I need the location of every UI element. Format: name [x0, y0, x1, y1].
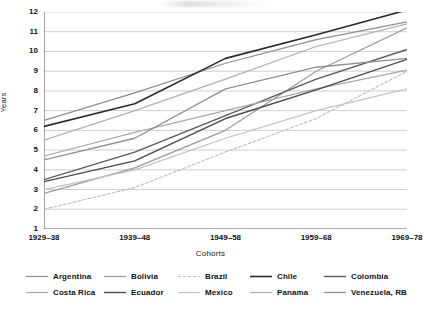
- legend-swatch-icon: [26, 288, 48, 297]
- legend-label: Bolivia: [131, 272, 158, 281]
- y-axis-tick-label: 1: [20, 225, 38, 233]
- y-axis-tick-label: 7: [20, 107, 38, 115]
- legend-label: Costa Rica: [53, 288, 95, 297]
- legend-item-panama[interactable]: Panama: [250, 284, 324, 300]
- legend-item-chile[interactable]: Chile: [250, 268, 324, 284]
- legend-swatch-icon: [104, 288, 126, 297]
- y-axis-tick-label: 4: [20, 166, 38, 174]
- x-axis-tick-label: 1949–58: [191, 233, 261, 242]
- legend-label: Ecuador: [131, 288, 164, 297]
- legend-item-colombia[interactable]: Colombia: [324, 268, 406, 284]
- legend-row: ArgentinaBoliviaBrazilChileColombia: [26, 268, 406, 284]
- x-axis-tick-labels: 1929–381939–481949–581959–681969–78: [44, 233, 407, 247]
- x-axis-tick-label: 1959–68: [281, 233, 351, 242]
- y-axis-tick-labels: 123456789101112: [18, 12, 38, 229]
- series-line-chile: [44, 12, 407, 126]
- legend-item-costa-rica[interactable]: Costa Rica: [26, 284, 104, 300]
- series-line-colombia: [44, 49, 407, 179]
- y-axis-tick-label: 11: [20, 28, 38, 36]
- y-axis-tick-label: 10: [20, 47, 38, 55]
- x-axis-tick-label: 1939–48: [100, 233, 170, 242]
- legend-label: Argentina: [53, 272, 91, 281]
- top-artifact: [160, 1, 270, 7]
- legend-swatch-icon: [250, 272, 272, 281]
- y-axis-tick-label: 6: [20, 126, 38, 134]
- legend-label: Venezuela, RB: [351, 288, 407, 297]
- y-axis-tick-label: 8: [20, 87, 38, 95]
- legend-item-venezuela-rb[interactable]: Venezuela, RB: [324, 284, 406, 300]
- legend-item-bolivia[interactable]: Bolivia: [104, 268, 178, 284]
- legend-swatch-icon: [324, 288, 346, 297]
- legend-item-brazil[interactable]: Brazil: [178, 268, 250, 284]
- legend-swatch-icon: [26, 272, 48, 281]
- series-line-brazil: [44, 71, 407, 209]
- series-line-venezuela-rb: [44, 58, 407, 160]
- legend-swatch-icon: [104, 272, 126, 281]
- y-axis-tick-label: 12: [20, 8, 38, 16]
- y-axis-tick-label: 5: [20, 146, 38, 154]
- y-axis-title: Years: [0, 68, 8, 138]
- legend-swatch-icon: [178, 288, 200, 297]
- x-axis-tick-label: 1969–78: [372, 233, 427, 242]
- plot-area: [44, 12, 407, 229]
- legend-item-ecuador[interactable]: Ecuador: [104, 284, 178, 300]
- y-axis-tick-label: 9: [20, 67, 38, 75]
- y-axis-tick-label: 3: [20, 186, 38, 194]
- x-axis-title: Cohorts: [0, 249, 421, 258]
- legend-item-mexico[interactable]: Mexico: [178, 284, 250, 300]
- legend-swatch-icon: [178, 272, 200, 281]
- x-axis-tick-label: 1929–38: [9, 233, 79, 242]
- legend-item-argentina[interactable]: Argentina: [26, 268, 104, 284]
- legend-swatch-icon: [324, 272, 346, 281]
- legend-label: Panama: [277, 288, 308, 297]
- legend-label: Brazil: [205, 272, 227, 281]
- legend-label: Chile: [277, 272, 297, 281]
- line-chart-canvas: [44, 12, 407, 229]
- legend-row: Costa RicaEcuadorMexicoPanamaVenezuela, …: [26, 284, 406, 300]
- y-axis-tick-label: 2: [20, 205, 38, 213]
- chart-legend: ArgentinaBoliviaBrazilChileColombiaCosta…: [26, 268, 406, 302]
- legend-label: Mexico: [205, 288, 233, 297]
- legend-swatch-icon: [250, 288, 272, 297]
- legend-label: Colombia: [351, 272, 388, 281]
